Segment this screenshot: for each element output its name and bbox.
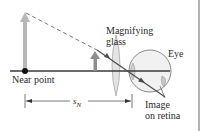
image-label-line1: Image [145, 99, 170, 110]
magnifying-glass-label-line2: glass [106, 36, 126, 47]
object-arrow-near-point [20, 12, 30, 71]
dashed-ray [26, 13, 97, 50]
object-arrow-small [90, 51, 100, 71]
eye-label: Eye [168, 48, 184, 59]
near-point-label: Near point [12, 74, 55, 85]
image-label-line2: on retina [145, 110, 180, 121]
magnifying-glass-label-line1: Magnifying [106, 25, 153, 36]
distance-subscript: N [77, 101, 82, 109]
distance-label: sN [73, 96, 81, 111]
